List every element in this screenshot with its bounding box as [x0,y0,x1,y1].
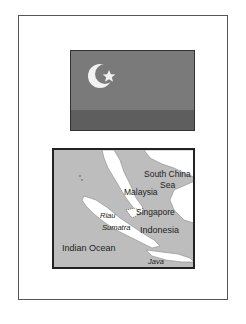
region-map: South China Sea Malaysia Singapore Riau … [52,148,195,269]
label-riau: Riau [100,212,115,220]
label-singapore: Singapore [136,208,175,217]
label-malaysia: Malaysia [124,188,158,197]
label-south-china: South China [144,170,191,179]
crescent-star-icon [71,51,195,131]
label-sea: Sea [160,181,175,190]
label-indonesia: Indonesia [140,226,179,235]
label-indian-ocean: Indian Ocean [62,244,116,253]
flag-image [70,50,195,131]
label-sumatra: Sumatra [102,224,130,232]
label-java: Java [148,258,164,266]
